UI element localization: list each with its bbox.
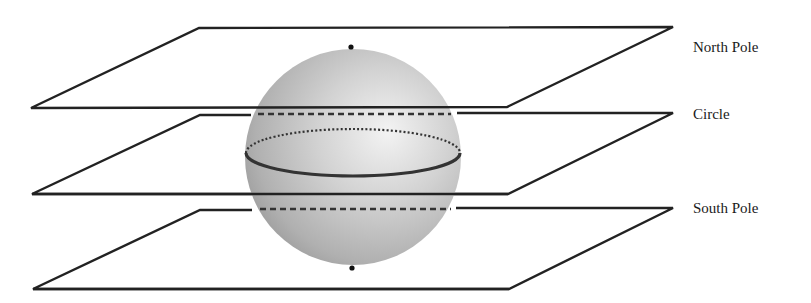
south-pole-point <box>349 265 354 270</box>
sphere <box>245 44 461 270</box>
north-pole-point <box>348 44 353 49</box>
circle-label: Circle <box>693 106 730 122</box>
north-pole-label: North Pole <box>693 39 759 55</box>
south-pole-label: South Pole <box>693 200 759 216</box>
sphere-planes-diagram: North Pole Circle South Pole <box>0 0 811 303</box>
sphere-body <box>245 49 461 265</box>
